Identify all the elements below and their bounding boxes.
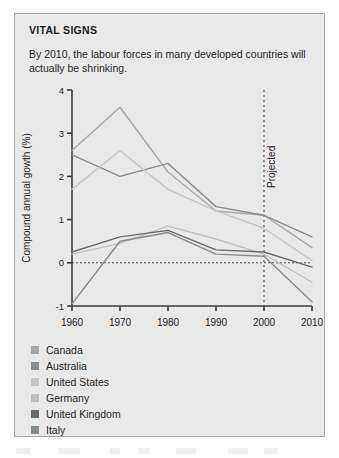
series-line-italy — [72, 233, 312, 304]
legend-swatch-icon — [31, 362, 39, 370]
x-tick-label: 2010 — [301, 317, 324, 328]
projected-annotation-label: Projected — [266, 146, 277, 188]
y-tick-label: -1 — [56, 301, 64, 312]
legend-item[interactable]: United Kingdom — [31, 406, 311, 422]
y-tick-label: 1 — [59, 214, 64, 225]
x-tick-label: 1980 — [157, 317, 180, 328]
legend-item-label: United States — [46, 376, 109, 388]
legend-swatch-icon — [31, 410, 39, 418]
legend-item-label: Australia — [46, 360, 87, 372]
x-tick-label: 1960 — [61, 317, 84, 328]
page-title: VITAL SIGNS — [29, 24, 97, 36]
y-tick-label: 0 — [59, 257, 64, 268]
legend-item-label: United Kingdom — [46, 408, 121, 420]
chart-legend: CanadaAustraliaUnited StatesGermanyUnite… — [31, 342, 311, 438]
y-axis-title: Compound annual gowth (%) — [21, 133, 32, 263]
legend-item-label: Italy — [46, 424, 65, 436]
cropped-source-caption — [16, 448, 316, 454]
legend-item[interactable]: United States — [31, 374, 311, 390]
legend-swatch-icon — [31, 426, 39, 434]
legend-swatch-icon — [31, 346, 39, 354]
line-chart: -101234196019701980199020002010Projected… — [15, 80, 324, 338]
chart-plot-area: -101234196019701980199020002010Projected… — [15, 80, 324, 338]
panel-subtitle: By 2010, the labour forces in many devel… — [29, 47, 311, 75]
legend-item[interactable]: Germany — [31, 390, 311, 406]
y-tick-label: 3 — [59, 128, 64, 139]
y-tick-label: 2 — [59, 171, 64, 182]
legend-swatch-icon — [31, 378, 39, 386]
y-tick-label: 4 — [59, 85, 64, 96]
legend-item[interactable]: Australia — [31, 358, 311, 374]
x-tick-label: 1990 — [205, 317, 228, 328]
x-tick-label: 1970 — [109, 317, 132, 328]
legend-item-label: Canada — [46, 344, 83, 356]
legend-item[interactable]: Italy — [31, 422, 311, 438]
x-tick-label: 2000 — [253, 317, 276, 328]
legend-item-label: Germany — [46, 392, 89, 404]
legend-item[interactable]: Canada — [31, 342, 311, 358]
vital-signs-panel: VITAL SIGNS By 2010, the labour forces i… — [14, 13, 325, 437]
legend-swatch-icon — [31, 394, 39, 402]
series-line-germany — [72, 226, 312, 282]
